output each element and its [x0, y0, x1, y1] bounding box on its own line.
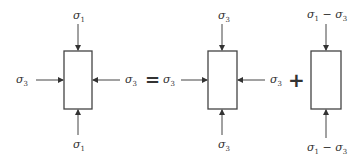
equals-sign: =: [145, 69, 160, 90]
label-bottom: σ3: [218, 138, 230, 153]
label-left: σ3: [163, 73, 175, 88]
label-right: σ3: [125, 73, 137, 88]
label-right: σ3: [270, 73, 282, 88]
stress-diagram: σ1 σ1 σ3 σ3 = σ3 σ3 σ3 σ3 + σ1 − σ3 σ1 −…: [0, 0, 360, 159]
label-bottom: σ1 − σ3: [307, 141, 347, 156]
label-top: σ1 − σ3: [307, 8, 347, 23]
stress-element-box: [311, 51, 341, 109]
label-left: σ3: [16, 73, 28, 88]
label-top: σ1: [73, 9, 85, 24]
label-bottom: σ1: [73, 138, 85, 153]
element-hydrostatic-stress: σ3 σ3 σ3 σ3: [163, 9, 282, 153]
plus-sign: +: [288, 68, 305, 92]
element-deviatoric-stress: σ1 − σ3 σ1 − σ3: [307, 8, 347, 156]
element-total-stress: σ1 σ1 σ3 σ3: [16, 9, 137, 153]
stress-element-box: [208, 51, 237, 109]
stress-element-box: [64, 51, 92, 109]
label-top: σ3: [218, 9, 230, 24]
